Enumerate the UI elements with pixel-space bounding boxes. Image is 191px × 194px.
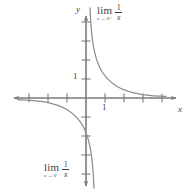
x-axis-label: x: [178, 105, 182, 114]
y-axis-label: y: [76, 5, 80, 14]
fraction-numerator-right: 1: [117, 4, 121, 12]
limit-operator-block-left: lim x → 0⁻: [44, 161, 59, 178]
fraction-denominator-left: x: [64, 171, 68, 179]
y-axis: [82, 16, 91, 186]
limit-annotation-right: lim x → 0⁺ 1 x: [97, 4, 122, 21]
fraction-denominator-right: x: [117, 14, 121, 22]
limit-subscript-right: x → 0⁺: [97, 15, 112, 21]
x-axis-tick-label-1: 1: [102, 103, 107, 112]
fraction-numerator-left: 1: [64, 161, 68, 169]
fraction-one-over-x-left: 1 x: [62, 161, 69, 178]
limit-subscript-left: x → 0⁻: [44, 172, 59, 178]
plot-canvas: [0, 0, 191, 194]
figure-graph-one-over-x: y x 1 1 lim x → 0⁺ 1 x lim x → 0⁻ 1 x: [0, 0, 191, 194]
limit-annotation-left: lim x → 0⁻ 1 x: [44, 161, 69, 178]
y-axis-tick-label-1: 1: [73, 72, 78, 81]
limit-operator-block-right: lim x → 0⁺: [97, 4, 112, 21]
fraction-one-over-x-right: 1 x: [115, 4, 122, 21]
